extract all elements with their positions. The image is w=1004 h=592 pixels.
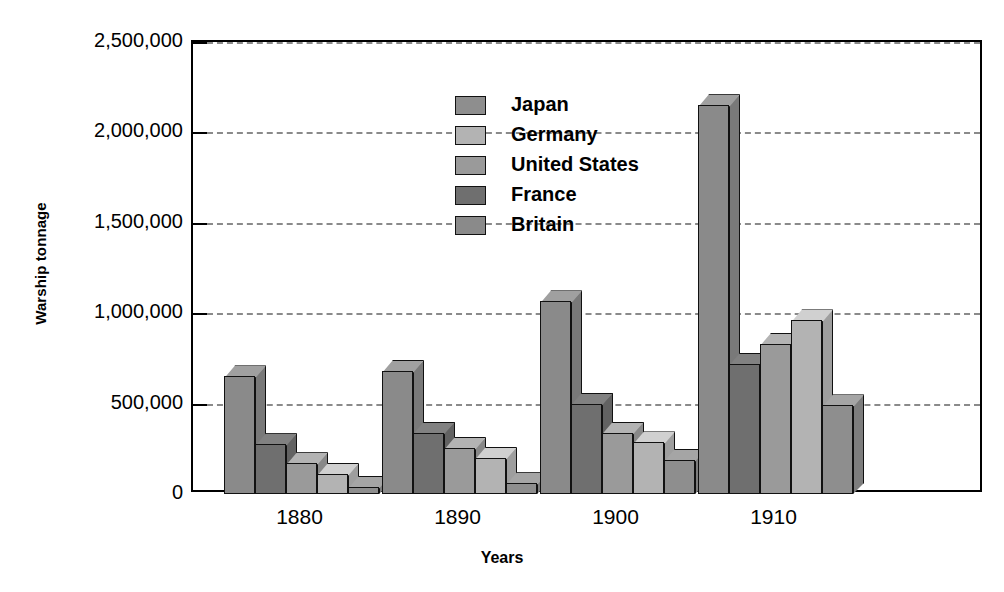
bar-front-face	[571, 404, 602, 494]
y-axis-tick	[193, 42, 207, 44]
y-axis-tick	[193, 313, 207, 315]
legend-swatch-icon	[455, 186, 486, 205]
y-axis-tick	[193, 132, 207, 134]
bar-front-face	[348, 487, 379, 494]
bar-front-face	[286, 463, 317, 494]
bar-front-face	[255, 444, 286, 494]
bar-front-face	[664, 460, 695, 494]
y-axis-tick-label: 2,500,000	[13, 29, 183, 52]
y-axis-tick-label: 2,000,000	[13, 119, 183, 142]
legend-swatch-icon	[455, 96, 486, 115]
legend-label: France	[511, 183, 577, 206]
bar-front-face	[698, 105, 729, 494]
y-axis-tick	[193, 404, 207, 406]
bar-front-face	[382, 371, 413, 494]
x-axis-tick-label: 1880	[276, 505, 323, 529]
bar-front-face	[760, 344, 791, 494]
gridline	[207, 313, 980, 315]
legend-label: Germany	[511, 123, 598, 146]
y-axis-tick-label: 0	[13, 481, 183, 504]
y-axis-tick-label: 500,000	[13, 390, 183, 413]
y-axis-tick	[193, 223, 207, 225]
bar-front-face	[413, 433, 444, 494]
legend-label: United States	[511, 153, 639, 176]
bar-japan-1910	[822, 394, 864, 494]
bar-front-face	[317, 474, 348, 494]
x-axis-tick-label: 1900	[592, 505, 639, 529]
gridline	[207, 42, 980, 44]
legend-swatch-icon	[455, 216, 486, 235]
bar-front-face	[791, 320, 822, 494]
warship-tonnage-bar-chart: Warship tonnage Years 0500,0001,000,0001…	[0, 0, 1004, 592]
bar-side-face	[853, 394, 864, 494]
bar-front-face	[444, 448, 475, 494]
plot-area: JapanGermanyUnited StatesFranceBritain	[191, 40, 982, 492]
legend-swatch-icon	[455, 156, 486, 175]
bar-front-face	[540, 301, 571, 494]
legend-label: Japan	[511, 93, 569, 116]
bar-front-face	[729, 364, 760, 494]
bar-front-face	[633, 442, 664, 494]
bar-front-face	[224, 376, 255, 494]
bar-front-face	[822, 405, 853, 494]
legend-swatch-icon	[455, 126, 486, 145]
bar-front-face	[475, 458, 506, 494]
bar-front-face	[506, 483, 537, 494]
y-axis-tick-label: 1,500,000	[13, 209, 183, 232]
legend-label: Britain	[511, 213, 574, 236]
y-axis-tick-label: 1,000,000	[13, 300, 183, 323]
x-axis-tick-label: 1890	[434, 505, 481, 529]
gridline	[207, 223, 980, 225]
bar-front-face	[602, 433, 633, 494]
x-axis-tick-label: 1910	[750, 505, 797, 529]
